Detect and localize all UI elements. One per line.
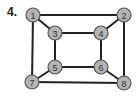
- node-6: 6: [94, 60, 108, 74]
- node-label: 6: [98, 63, 103, 73]
- node-label: 5: [52, 63, 57, 73]
- node-1: 1: [26, 8, 40, 22]
- node-3: 3: [48, 26, 62, 40]
- node-5: 5: [48, 60, 62, 74]
- node-label: 1: [30, 11, 35, 21]
- edge-7-8: [32, 82, 124, 83]
- node-label: 3: [52, 29, 57, 39]
- node-4: 4: [94, 26, 108, 40]
- node-label: 4: [98, 29, 103, 39]
- graph-edges: [32, 15, 124, 83]
- edge-1-7: [32, 15, 33, 82]
- node-label: 7: [29, 78, 34, 88]
- node-label: 8: [121, 79, 126, 89]
- graph-diagram: 12345678: [0, 0, 139, 98]
- node-7: 7: [25, 75, 39, 89]
- node-label: 2: [121, 11, 126, 21]
- node-8: 8: [117, 76, 131, 90]
- node-2: 2: [117, 8, 131, 22]
